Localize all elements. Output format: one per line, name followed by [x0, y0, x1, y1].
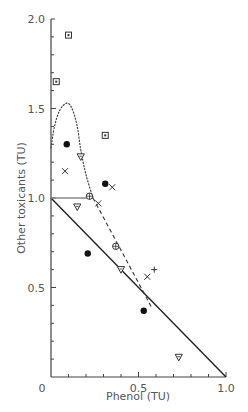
plus-marker — [151, 267, 157, 273]
x-tick-label: 1.0 — [217, 382, 235, 395]
boxed-dot-marker — [102, 132, 108, 138]
y-tick-label: 1.0 — [28, 192, 46, 205]
x-cross-marker — [95, 200, 101, 206]
dashed-line — [93, 198, 153, 309]
filled-circle-marker — [102, 180, 108, 186]
triangle-down-marker — [175, 354, 182, 361]
boxed-dot-marker — [53, 79, 59, 85]
x-cross-marker — [144, 274, 150, 280]
y-tick-label: 1.5 — [28, 103, 46, 116]
axes: 0.51.01.52.000.51.0 — [28, 13, 235, 395]
circled-cross-marker — [86, 193, 92, 199]
y-axis-label: Other toxicants (TU) — [15, 142, 28, 254]
x-axis-label: Phenol (TU) — [106, 390, 170, 403]
chart-svg: 0.51.01.52.000.51.0 Phenol (TU) Other to… — [0, 0, 248, 412]
y-tick-label: 0.5 — [28, 282, 46, 295]
filled-circle-marker — [85, 250, 91, 256]
boxed-dot-marker — [66, 32, 72, 38]
x-cross-marker — [62, 168, 68, 174]
triangle-down-marker — [74, 204, 81, 211]
x-tick-label: 0 — [39, 382, 46, 395]
lines-layer — [51, 103, 226, 377]
y-tick-label: 2.0 — [28, 13, 46, 26]
x-cross-marker — [109, 184, 115, 190]
triangle-down-marker — [77, 154, 84, 161]
dotted-curve — [51, 103, 93, 198]
additivity-line — [51, 198, 226, 377]
circled-cross-marker — [113, 243, 119, 249]
chart-container: 0.51.01.52.000.51.0 Phenol (TU) Other to… — [0, 0, 248, 412]
filled-circle-marker — [141, 308, 147, 314]
filled-circle-marker — [64, 141, 70, 147]
